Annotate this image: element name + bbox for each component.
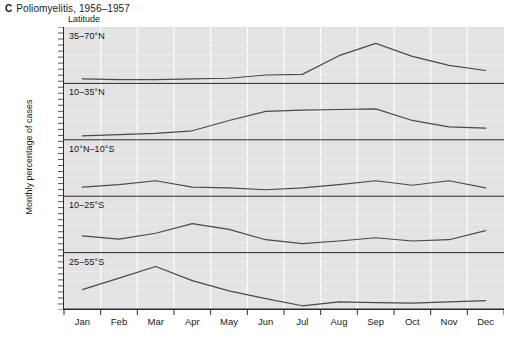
month-label-oct: Oct: [394, 316, 431, 327]
figure-title-text: Poliomyelitis, 1956–1957: [16, 3, 130, 14]
month-label-dec: Dec: [467, 316, 504, 327]
month-label-nov: Nov: [431, 316, 468, 327]
x-axis-ticks: [63, 310, 504, 315]
latitude-caption: Latitude: [68, 14, 100, 24]
month-label-feb: Feb: [101, 316, 138, 327]
month-label-sep: Sep: [357, 316, 394, 327]
month-label-jun: Jun: [247, 316, 284, 327]
month-label-may: May: [211, 316, 248, 327]
month-label-aug: Aug: [321, 316, 358, 327]
y-axis-label: Monthly percentage of cases: [24, 62, 34, 252]
figure-poliomyelitis-seasonality: CPoliomyelitis, 1956–1957 Monthly percen…: [0, 0, 508, 339]
month-label-jan: Jan: [64, 316, 101, 327]
figure-title: CPoliomyelitis, 1956–1957: [5, 3, 130, 14]
chart-canvas: [64, 27, 504, 309]
month-label-mar: Mar: [137, 316, 174, 327]
month-label-jul: Jul: [284, 316, 321, 327]
y-axis-ticks: [56, 27, 64, 310]
plot-area: 35–70°N10–35°N10°N–10°S10–25°S25–55°S: [64, 27, 504, 309]
x-axis-month-labels: JanFebMarAprMayJunJulAugSepOctNovDec: [64, 316, 504, 332]
gridlines: [64, 27, 504, 309]
figure-panel-letter: C: [5, 3, 12, 14]
month-label-apr: Apr: [174, 316, 211, 327]
